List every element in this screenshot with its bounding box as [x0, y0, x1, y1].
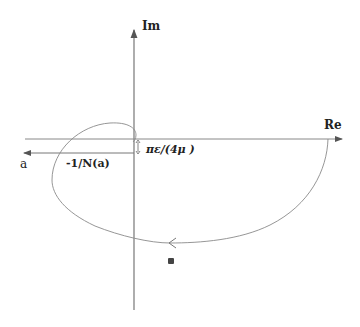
point-marker — [168, 258, 174, 264]
imaginary-axis-label: Im — [142, 20, 160, 32]
locus-label: -1/N(a) — [66, 158, 110, 169]
offset-label: πε/(4μ ) — [146, 144, 195, 155]
real-axis-label: Re — [324, 119, 342, 131]
diagram-graphics — [0, 0, 360, 327]
nyquist-diagram: Im Re a -1/N(a) πε/(4μ ) — [0, 0, 360, 327]
amplitude-direction-label: a — [20, 158, 27, 170]
nyquist-curve — [52, 123, 328, 243]
